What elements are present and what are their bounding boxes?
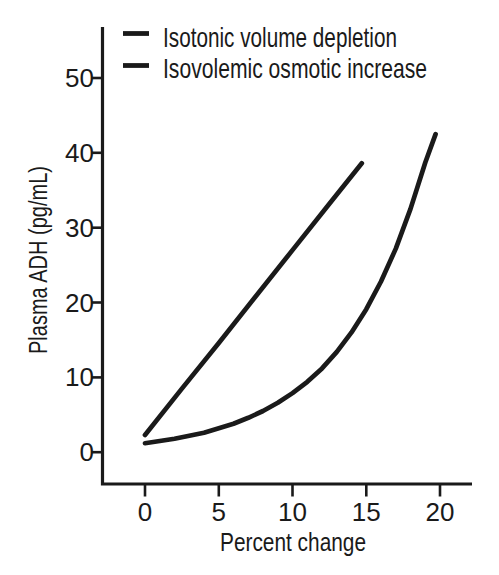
y-tick-label-50: 50 [65,63,94,93]
adh-chart-figure: Isotonic volume depletion Isovolemic osm… [0,0,499,575]
x-tick-label-20: 20 [426,497,455,527]
x-tick-label-10: 10 [278,497,307,527]
y-tick-label-20: 20 [65,288,94,318]
series-volume-depletion-curve [145,134,436,443]
y-axis-ticks [92,78,103,452]
legend-label-osmotic-increase: Isovolemic osmotic increase [163,53,427,84]
y-axis-tick-labels: 0 10 20 30 40 50 [65,63,94,467]
x-axis-ticks [145,484,440,497]
x-axis-tick-labels: 0 5 10 15 20 [138,497,455,527]
series-osmotic-increase-line [145,163,362,435]
legend-label-volume-depletion: Isotonic volume depletion [163,22,397,53]
y-tick-label-10: 10 [65,362,94,392]
x-tick-label-0: 0 [138,497,152,527]
chart-canvas: Isotonic volume depletion Isovolemic osm… [0,0,499,575]
y-tick-label-40: 40 [65,138,94,168]
legend: Isotonic volume depletion Isovolemic osm… [123,22,427,85]
x-tick-label-15: 15 [352,497,381,527]
y-tick-label-30: 30 [65,213,94,243]
x-tick-label-5: 5 [212,497,226,527]
y-axis-title: Plasma ADH (pg/mL) [23,166,53,354]
x-axis-title: Percent change [220,527,366,557]
y-tick-label-0: 0 [80,437,94,467]
